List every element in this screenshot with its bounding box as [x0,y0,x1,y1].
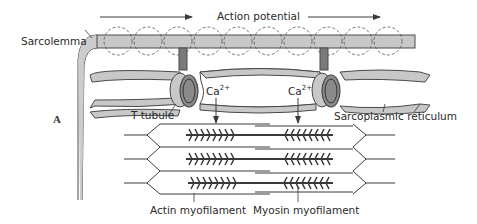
calcium-symbol: Ca [206,85,220,97]
t-tubule-right [312,48,340,107]
t-tubule-label: T tubule [131,110,174,121]
myofibrils [124,124,395,194]
calcium-label-right: Ca2+ [288,85,312,96]
calcium-charge: 2+ [302,84,312,92]
calcium-symbol: Ca [288,85,302,97]
calcium-label-left: Ca2+ [206,85,230,96]
panel-label: A [53,113,61,125]
calcium-charge: 2+ [220,84,230,92]
action-potential-label: Action potential [217,11,300,22]
sarcolemma-label: Sarcolemma [21,36,87,47]
myosin-myofilament-label: Myosin myofilament [253,205,359,216]
sarcoplasmic-reticulum-label: Sarcoplasmic reticulum [334,111,457,122]
actin-myofilament-label: Actin myofilament [150,205,246,216]
t-tubule-left [170,48,198,107]
